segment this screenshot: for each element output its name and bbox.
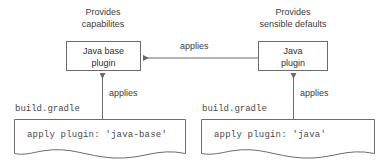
caption-provides-sensible-defaults: Provides sensible defaults (233, 6, 353, 30)
code-snippet-right: apply plugin: 'java' (214, 130, 326, 141)
gradle-plugin-diagram: Provides capabilites Provides sensible d… (0, 0, 390, 165)
node-java-base-plugin-line1: Java base (66, 45, 141, 57)
node-label-java-base-plugin: Java base plugin (66, 45, 141, 69)
code-snippet-left: apply plugin: 'java-base' (27, 130, 167, 141)
caption-provides-capabilities: Provides capabilites (53, 6, 153, 30)
node-java-plugin-line2: plugin (258, 57, 328, 69)
file-name-left-build-gradle: build.gradle (15, 104, 80, 115)
edge-label-right-file-to-plugin: applies (300, 88, 329, 98)
caption-right-line2: sensible defaults (233, 18, 353, 30)
node-java-plugin-line1: Java (258, 45, 328, 57)
file-name-right-build-gradle: build.gradle (202, 104, 267, 115)
caption-left-line2: capabilites (53, 18, 153, 30)
edge-label-plugin-to-base: applies (180, 41, 209, 51)
edge-label-left-file-to-base: applies (109, 88, 138, 98)
caption-left-line1: Provides (53, 6, 153, 18)
node-label-java-plugin: Java plugin (258, 45, 328, 69)
caption-right-line1: Provides (233, 6, 353, 18)
node-java-base-plugin-line2: plugin (66, 57, 141, 69)
